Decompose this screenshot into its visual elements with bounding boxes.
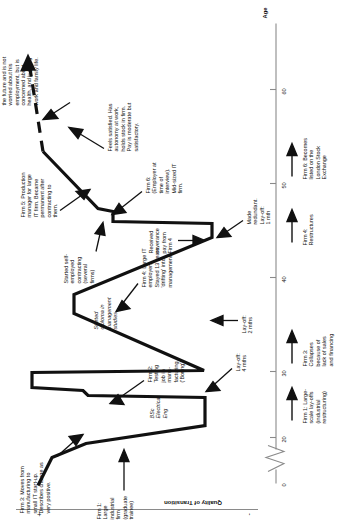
annotation-self-employed: Started self- employed contracting (seve…	[63, 249, 95, 283]
annotation-firm6: Firm 6: (Employer at time of interview).…	[145, 155, 183, 193]
annotation-layoff-2mths: Lay-off: 2 mths	[241, 303, 254, 333]
career-transition-chart: Age Quality of Transition + - 0 20 30 40…	[0, 0, 356, 523]
trajectory-solid-line	[32, 151, 212, 485]
annotation-firm2: Firm 2: Testing job in manu- facturing. …	[147, 350, 185, 382]
diagram-page: Age Quality of Transition + - 0 20 30 40…	[0, 0, 356, 523]
x-tick-label-20: 20	[281, 436, 287, 442]
x-tick-label-50: 50	[281, 182, 287, 188]
event-firm1-layoffs: Firm 1: Large- scale lay-offs (industria…	[302, 379, 328, 423]
annotation-made-redundant: Made redundant. Lay-off: 1 mth	[246, 190, 272, 224]
annotation-firm3: Firm 3: Moves from manufacturing to smal…	[19, 443, 51, 513]
annotation-expresses-confidence: Expresses confidence about the future an…	[0, 37, 39, 105]
y-axis-minus-sign: -	[245, 513, 252, 515]
y-axis-label: Quality of Transition	[138, 499, 248, 505]
axis-break-symbol	[266, 445, 284, 471]
event-arrows	[287, 143, 297, 420]
chart-plot-svg	[0, 0, 356, 523]
annotation-firm5: Firm 5: Production manager for large IT …	[20, 157, 58, 217]
annotation-severance: Received severance pay from Firm 4	[148, 219, 174, 253]
x-tick-label-60: 60	[281, 88, 287, 94]
annotation-firm1: Firm 1: Large industrial firm (graduate …	[96, 489, 134, 519]
x-axis-label: Age	[262, 7, 268, 18]
x-tick-label-0: 0	[281, 483, 287, 486]
event-firm4-restructures: Firm 4: Restructures	[302, 201, 315, 245]
x-tick-label-40: 40	[281, 276, 287, 282]
x-tick-label-30: 30	[281, 370, 287, 376]
event-firm6-listed: Firm 6: Becomes listed on the London Sto…	[302, 127, 328, 179]
annotation-feels-satisfied: Feels satisfied. Has autonomy at work, h…	[107, 85, 139, 151]
annotation-diploma: Started diploma in management studies	[93, 285, 119, 329]
event-firm3-collapses: Firm 3: Collapses because of lack of sal…	[302, 322, 334, 366]
annotation-layoff-4mths: Lay-off: 4 mths	[235, 341, 248, 371]
annotation-bsc: BSc Electrical Eng	[149, 386, 168, 418]
